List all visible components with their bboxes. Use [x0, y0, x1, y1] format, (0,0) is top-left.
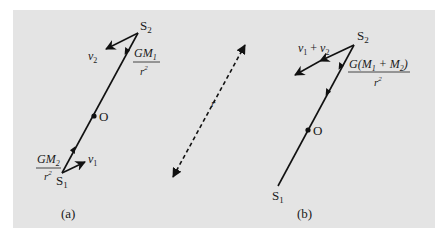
accel-fraction-b: G(M1 + M2) r2	[348, 57, 410, 88]
svg-text:G(M1 + M2): G(M1 + M2)	[349, 57, 408, 73]
svg-text:r2: r2	[44, 169, 52, 182]
separation-r-dashed-arrow	[173, 45, 245, 177]
velocity-sum-arrow-part2	[295, 61, 320, 75]
caption-a: (a)	[61, 206, 75, 221]
binary-star-diagram: S2 v2 GM1 r2 O GM2 r2 v1 S1 (a) r S2 v1 …	[0, 0, 445, 240]
velocity-v1-label: v1	[88, 152, 97, 168]
panel-b: S2 v1 + v2 G(M1 + M2) r2 O S1 (b)	[272, 28, 410, 221]
svg-text:GM2: GM2	[37, 152, 60, 168]
caption-b: (b)	[297, 206, 312, 221]
center-o-label-a: O	[99, 109, 108, 124]
center-o-label-b: O	[313, 123, 322, 138]
separation-r: r	[173, 45, 245, 177]
star-s2-label-b: S2	[357, 28, 369, 45]
svg-text:GM1: GM1	[134, 46, 157, 62]
star-s2-label-a: S2	[140, 18, 152, 35]
velocity-sum-label: v1 + v2	[298, 41, 329, 57]
star-s1-label-b: S1	[272, 188, 284, 205]
center-of-mass-a	[91, 113, 96, 118]
separation-r-label: r	[211, 97, 216, 109]
accel-fraction-top-a: GM1 r2	[133, 46, 160, 77]
center-of-mass-b	[305, 127, 310, 132]
svg-text:r2: r2	[140, 64, 148, 77]
star-s1-label-a: S1	[56, 173, 68, 190]
svg-text:r2: r2	[374, 75, 382, 88]
velocity-v2-label: v2	[88, 49, 97, 65]
panel-a: S2 v2 GM1 r2 O GM2 r2 v1 S1 (a)	[36, 18, 160, 221]
